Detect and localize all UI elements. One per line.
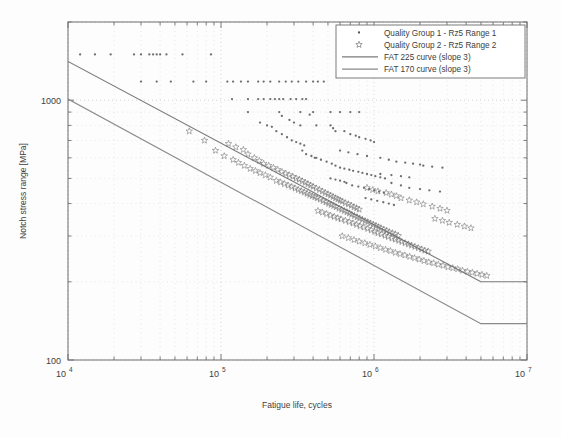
data-point-group1 [400, 184, 402, 186]
x-tick-label: 10 [515, 369, 525, 379]
data-point-group1 [439, 190, 441, 192]
data-point-group1 [352, 170, 354, 172]
data-point-group1 [390, 182, 392, 184]
data-point-group1 [349, 133, 351, 135]
data-point-group1 [156, 53, 158, 55]
data-point-group1 [358, 136, 360, 138]
data-point-group1 [388, 159, 390, 161]
data-point-group1 [343, 168, 345, 170]
x-tick-exponent: 4 [69, 366, 73, 373]
x-tick-exponent: 7 [528, 366, 532, 373]
data-point-group1 [384, 177, 386, 179]
data-point-group1 [79, 53, 81, 55]
data-point-group1 [291, 139, 293, 141]
x-axis-title: Fatigue life, cycles [262, 400, 332, 410]
data-point-group1 [192, 80, 194, 82]
data-point-group1 [226, 80, 228, 82]
data-point-group1 [422, 164, 424, 166]
data-point-group1 [263, 98, 265, 100]
data-point-group1 [289, 98, 291, 100]
data-point-group1 [382, 201, 384, 203]
data-point-group1 [315, 124, 317, 126]
data-point-group1 [263, 80, 265, 82]
data-point-group1 [312, 111, 314, 113]
data-point-group1 [358, 111, 360, 113]
data-point-group1 [370, 174, 372, 176]
data-point-group1 [364, 197, 366, 199]
x-tick-exponent: 6 [375, 366, 379, 373]
data-point-group1 [266, 124, 268, 126]
data-point-group1 [165, 53, 167, 55]
data-point-group1 [339, 111, 341, 113]
data-point-group1 [400, 175, 402, 177]
data-point-group1 [259, 121, 261, 123]
data-point-group1 [334, 130, 336, 132]
data-point-group1 [301, 98, 303, 100]
data-point-group1 [170, 80, 172, 82]
data-point-group1 [140, 53, 142, 55]
data-point-group1 [339, 149, 341, 151]
data-point-group1 [356, 153, 358, 155]
data-point-group1 [351, 184, 353, 186]
data-point-group1 [310, 155, 312, 157]
data-point-group1 [278, 111, 280, 113]
data-point-group1 [315, 157, 317, 159]
legend-marker-dot-icon [358, 31, 360, 33]
x-tick-label: 10 [362, 369, 372, 379]
data-point-group1 [370, 198, 372, 200]
data-point-group1 [299, 143, 301, 145]
data-point-group1 [159, 53, 161, 55]
y-axis-title: Notch stress range [MPa] [18, 143, 28, 239]
data-point-group1 [325, 161, 327, 163]
data-point-group1 [393, 204, 395, 206]
data-point-group1 [329, 111, 331, 113]
data-point-group1 [281, 115, 283, 117]
data-point-group1 [305, 80, 307, 82]
data-point-group1 [205, 80, 207, 82]
data-point-group1 [404, 161, 406, 163]
data-point-group1 [357, 171, 359, 173]
data-point-group1 [334, 164, 336, 166]
data-point-group1 [305, 98, 307, 100]
data-point-group1 [309, 113, 311, 115]
legend-entry-label: FAT 225 curve (slope 3) [384, 53, 471, 62]
data-point-group1 [347, 151, 349, 153]
data-point-group1 [152, 53, 154, 55]
figure-canvas: 104105106107 1001000 Fatigue life, cycle… [0, 0, 561, 437]
data-point-group1 [331, 162, 333, 164]
data-point-group1 [317, 80, 319, 82]
data-point-group1 [295, 98, 297, 100]
data-point-group1 [247, 111, 249, 113]
data-point-group1 [419, 188, 421, 190]
data-point-group1 [366, 173, 368, 175]
data-point-group1 [355, 135, 357, 137]
data-point-group1 [291, 80, 293, 82]
data-point-group1 [240, 80, 242, 82]
data-point-group1 [343, 181, 345, 183]
chart-legend: Quality Group 1 - Rz5 Range 1Quality Gro… [336, 25, 525, 78]
data-point-group1 [181, 53, 183, 55]
data-point-group1 [282, 98, 284, 100]
data-point-group1 [349, 111, 351, 113]
data-point-group1 [379, 173, 381, 175]
data-point-group1 [274, 98, 276, 100]
data-point-group1 [232, 80, 234, 82]
data-point-group1 [305, 153, 307, 155]
data-point-group1 [303, 144, 305, 146]
data-point-group1 [257, 80, 259, 82]
data-point-group1 [269, 98, 271, 100]
data-point-group1 [329, 177, 331, 179]
data-point-group1 [297, 80, 299, 82]
data-point-group1 [366, 155, 368, 157]
data-point-group1 [293, 121, 295, 123]
data-point-group1 [140, 80, 142, 82]
data-point-group1 [334, 178, 336, 180]
data-point-group1 [288, 119, 290, 121]
data-point-group1 [285, 80, 287, 82]
data-point-group1 [339, 180, 341, 182]
x-tick-label: 10 [209, 369, 219, 379]
data-point-group1 [364, 138, 366, 140]
data-point-group1 [361, 172, 363, 174]
x-tick-label: 10 [56, 369, 66, 379]
data-point-group1 [374, 175, 376, 177]
